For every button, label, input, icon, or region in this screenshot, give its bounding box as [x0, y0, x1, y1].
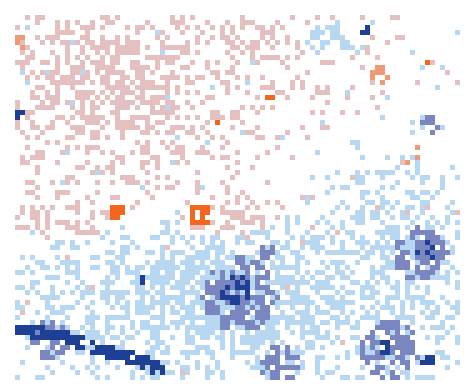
heatmap-grid-map — [0, 0, 470, 388]
map-canvas — [0, 0, 470, 388]
